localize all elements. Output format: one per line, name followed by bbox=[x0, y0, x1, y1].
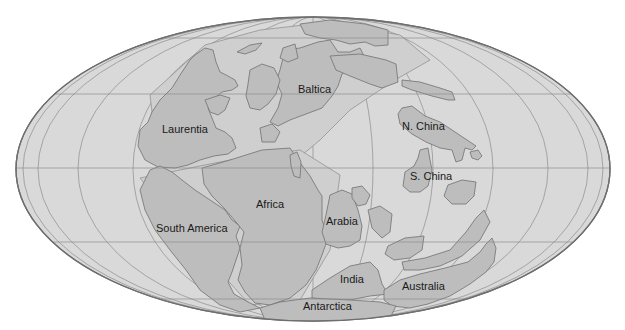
label-baltica: Baltica bbox=[298, 84, 331, 95]
label-n-china: N. China bbox=[402, 121, 445, 132]
paleogeographic-world-map bbox=[0, 0, 625, 330]
label-india: India bbox=[340, 274, 364, 285]
label-arabia: Arabia bbox=[326, 216, 358, 227]
label-africa: Africa bbox=[256, 199, 284, 210]
label-australia: Australia bbox=[402, 281, 445, 292]
label-laurentia: Laurentia bbox=[162, 124, 208, 135]
label-s-china: S. China bbox=[410, 171, 452, 182]
label-south-america: South America bbox=[156, 223, 228, 234]
label-antarctica: Antarctica bbox=[303, 301, 352, 312]
